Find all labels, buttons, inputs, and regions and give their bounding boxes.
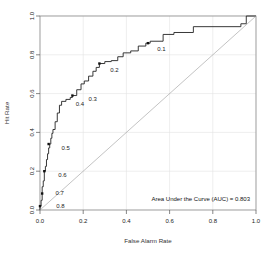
x-tick-label: 0.8 xyxy=(209,218,218,224)
threshold-point-marker xyxy=(47,143,49,145)
x-tick-label: 1.0 xyxy=(252,218,261,224)
y-tick-label: 0.0 xyxy=(29,205,35,214)
x-tick-label: 0.0 xyxy=(36,218,45,224)
threshold-label: 0.4 xyxy=(76,101,85,107)
threshold-point-marker xyxy=(41,192,43,194)
y-tick-label: 1.0 xyxy=(29,11,35,20)
x-tick-label: 0.6 xyxy=(165,218,174,224)
x-tick-label: 0.2 xyxy=(79,218,88,224)
y-tick-label: 0.2 xyxy=(29,166,35,175)
x-axis-label: False Alarm Rate xyxy=(124,237,172,244)
threshold-label: 0.2 xyxy=(110,67,119,73)
roc-chart-figure: 0.00.20.40.60.81.0 0.00.20.40.60.81.0 0.… xyxy=(0,0,268,253)
threshold-label: 0.8 xyxy=(56,203,65,209)
y-tick-label: 0.4 xyxy=(29,128,35,137)
x-tick-label: 0.4 xyxy=(122,218,131,224)
auc-annotation: Area Under the Curve (AUC) = 0.803 xyxy=(151,196,250,202)
threshold-point-marker xyxy=(147,42,149,44)
roc-plot-svg: 0.00.20.40.60.81.0 0.00.20.40.60.81.0 0.… xyxy=(0,0,268,253)
threshold-point-marker xyxy=(98,62,100,64)
y-axis-label: Hit Rate xyxy=(3,101,10,124)
y-tick-label: 0.6 xyxy=(29,89,35,98)
threshold-label: 0.5 xyxy=(62,145,71,151)
threshold-point-marker xyxy=(39,205,41,207)
threshold-point-marker xyxy=(43,170,45,172)
threshold-label: 0.7 xyxy=(56,190,65,196)
threshold-label: 0.3 xyxy=(89,96,98,102)
threshold-label: 0.6 xyxy=(58,172,67,178)
y-tick-label: 0.8 xyxy=(29,50,35,59)
threshold-label: 0.1 xyxy=(157,46,166,52)
threshold-point-marker xyxy=(71,94,73,96)
